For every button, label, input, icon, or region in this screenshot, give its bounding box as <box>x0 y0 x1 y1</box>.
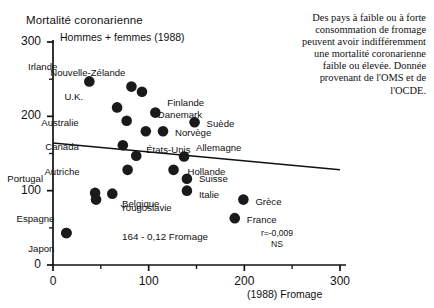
x-tick-label: 100 <box>139 274 159 288</box>
regression-equation: 164 - 0,12 Fromage <box>122 231 208 242</box>
point-label: France <box>247 214 277 225</box>
data-point[interactable] <box>84 76 95 87</box>
y-tick-label: 100 <box>21 183 41 197</box>
chart-figure: Mortalité coronarienne Hommes + femmes (… <box>0 0 434 308</box>
data-point[interactable] <box>118 140 129 151</box>
point-label: Italie <box>199 189 219 200</box>
point-label: Australie <box>41 117 78 128</box>
data-point[interactable] <box>238 194 249 205</box>
data-point[interactable] <box>112 102 123 113</box>
data-point[interactable] <box>91 194 102 205</box>
x-axis-label: (1988) Fromage <box>247 288 322 300</box>
point-label: Japon <box>28 243 54 254</box>
point-label: Finlande <box>167 97 204 108</box>
data-point[interactable] <box>126 81 137 92</box>
point-label: U.K. <box>64 91 83 102</box>
point-label: Yougoslavie <box>120 202 171 213</box>
point-label: États-Unis <box>146 144 190 155</box>
y-tick-label: 200 <box>21 108 41 122</box>
data-point[interactable] <box>107 188 118 199</box>
point-label: Espagne <box>17 213 55 224</box>
point-label: Canada <box>45 141 79 152</box>
significance-label: NS <box>247 239 307 249</box>
x-tick-label: 0 <box>50 274 57 288</box>
data-point[interactable] <box>137 87 148 98</box>
data-point[interactable] <box>121 115 132 126</box>
correlation-value: r=-0,009 <box>247 228 307 238</box>
data-point[interactable] <box>122 165 133 176</box>
data-point[interactable] <box>229 213 240 224</box>
data-point[interactable] <box>182 185 193 196</box>
data-point[interactable] <box>131 150 142 161</box>
y-tick-label: 300 <box>21 34 41 48</box>
point-label: Autriche <box>44 166 79 177</box>
data-point[interactable] <box>168 165 179 176</box>
data-point[interactable] <box>140 126 151 137</box>
point-label: Grèce <box>255 196 281 207</box>
point-label: Norvège <box>175 127 211 138</box>
x-tick-label: 200 <box>234 274 254 288</box>
point-label: Portugal <box>7 173 43 184</box>
x-tick-label: 300 <box>330 274 350 288</box>
data-point[interactable] <box>61 228 72 239</box>
figure-caption: Des pays à faible ou à forte consommatio… <box>300 12 426 97</box>
point-label: Danemark <box>158 109 202 120</box>
point-label: Suisse <box>199 173 228 184</box>
point-label: Nouvelle-Zélande <box>50 67 125 78</box>
y-tick-label: 0 <box>34 257 41 271</box>
point-label: Allemagne <box>196 142 241 153</box>
data-point[interactable] <box>158 126 169 137</box>
